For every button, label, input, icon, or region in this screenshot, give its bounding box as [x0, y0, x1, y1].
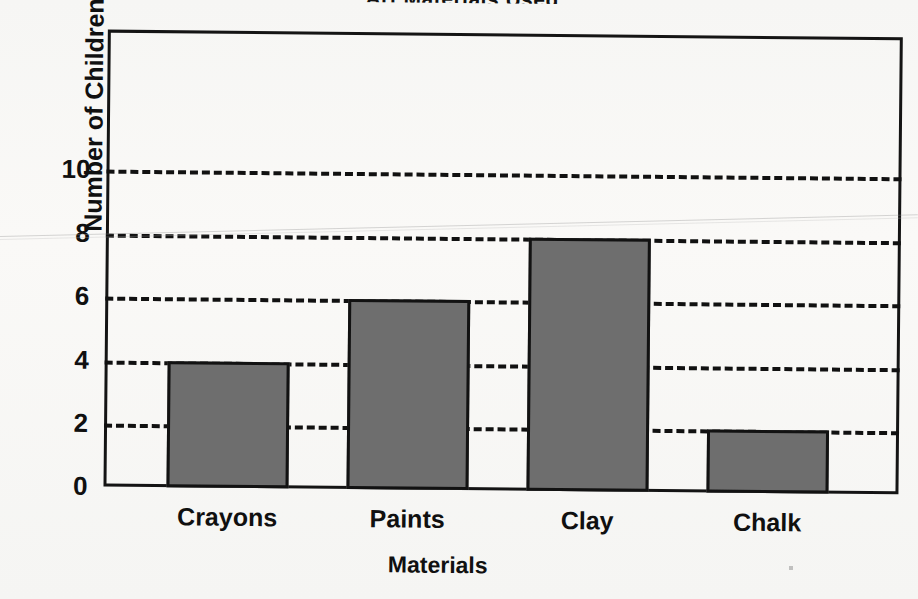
bar-paints[interactable] — [346, 299, 470, 490]
x-label-paints: Paints — [370, 504, 445, 534]
y-tick-0: 0 — [25, 470, 87, 502]
x-label-chalk: Chalk — [733, 508, 801, 538]
x-axis-title: Materials — [0, 548, 916, 584]
bar-chart: Art Materials Used 10 8 6 4 2 0 Crayons … — [0, 0, 918, 599]
bar-clay[interactable] — [526, 238, 650, 492]
bar-chalk[interactable] — [706, 429, 829, 493]
bar-crayons[interactable] — [166, 361, 289, 488]
y-tick-4: 4 — [27, 344, 89, 376]
chart-title: Art Materials Used — [3, 0, 918, 7]
y-tick-6: 6 — [27, 280, 89, 312]
x-label-crayons: Crayons — [177, 502, 277, 532]
bar-layer — [103, 30, 902, 495]
scan-dust-speck — [789, 566, 793, 570]
x-axis-title-text: Materials — [388, 551, 488, 579]
y-axis-title: Number of Children — [78, 0, 110, 285]
y-tick-2: 2 — [26, 407, 88, 439]
x-label-clay: Clay — [561, 506, 614, 536]
